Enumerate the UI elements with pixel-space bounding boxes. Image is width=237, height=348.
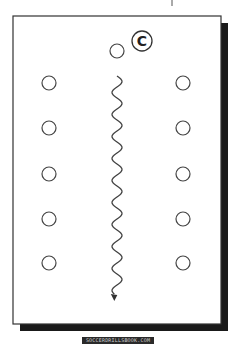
left-player-circle — [42, 121, 56, 135]
coach-label: C — [137, 33, 147, 49]
diagram-canvas: C — [0, 0, 237, 348]
coach-marker: C — [132, 31, 152, 51]
left-player-circle — [42, 212, 56, 226]
left-player-circle — [42, 256, 56, 270]
left-player-circle — [42, 167, 56, 181]
right-player-circle — [176, 167, 190, 181]
right-player-circle — [176, 121, 190, 135]
right-player-circle — [176, 76, 190, 90]
right-player-circle — [176, 256, 190, 270]
top-player-circle — [110, 44, 124, 58]
watermark-caption: SOCCERDRILLSBOOK.COM — [82, 337, 154, 344]
right-player-circle — [176, 212, 190, 226]
left-player-circle — [42, 76, 56, 90]
